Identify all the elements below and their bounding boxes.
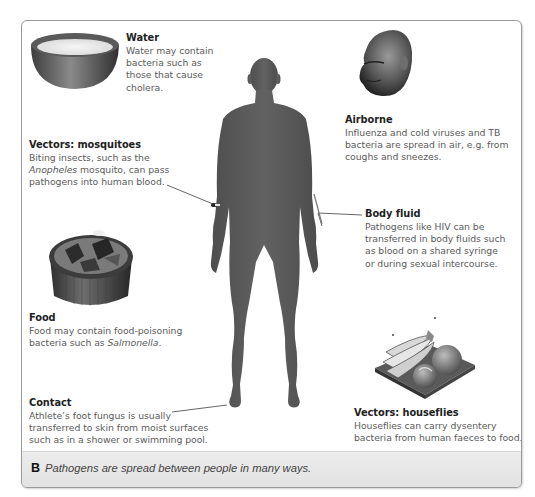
human-body-silhouette xyxy=(211,58,318,407)
syringe-icon xyxy=(314,194,322,224)
callout-mosquitoes: Vectors: mosquitoes Biting insects, such… xyxy=(29,139,169,189)
genus-name: Anopheles xyxy=(29,164,77,175)
callout-line: bacteria such as Salmonella. xyxy=(29,337,182,349)
callout-line: Pathogens like HIV can be xyxy=(365,221,505,233)
callout-line: bacteria from human faeces to food. xyxy=(354,432,522,444)
callout-line: Athlete’s foot fungus is usually xyxy=(29,410,208,422)
callout-title: Contact xyxy=(29,397,208,410)
callout-line-prefix: bacteria such as xyxy=(29,337,107,348)
genus-name: Salmonella xyxy=(107,337,158,348)
callout-line: Biting insects, such as the xyxy=(29,152,169,164)
callout-line: Houseflies can carry dysentery xyxy=(354,420,522,432)
callout-food: Food Food may contain food-poisoning bac… xyxy=(29,312,182,349)
callout-contact: Contact Athlete’s foot fungus is usually… xyxy=(29,397,208,447)
figure-letter: B xyxy=(31,461,40,475)
bowl-of-water-icon xyxy=(31,33,119,89)
callout-title: Body fluid xyxy=(365,208,505,221)
callout-line: such as in a shower or swimming pool. xyxy=(29,434,208,446)
callout-line: cholera. xyxy=(126,82,213,94)
bite-highlight xyxy=(215,204,220,206)
callout-line-suffix: . xyxy=(158,337,161,348)
callout-line: bacteria are spread in air, e.g. from xyxy=(345,139,508,151)
callout-houseflies: Vectors: houseflies Houseflies can carry… xyxy=(354,407,522,444)
figure-caption: BPathogens are spread between people in … xyxy=(22,451,521,487)
callout-line: transferred to skin from moist surfaces xyxy=(29,422,208,434)
callout-line-rest: mosquito, can pass xyxy=(77,164,169,175)
callout-title: Vectors: mosquitoes xyxy=(29,139,169,152)
callout-line: coughs and sneezes. xyxy=(345,151,508,163)
callout-line: Anopheles mosquito, can pass xyxy=(29,164,169,176)
sneezing-head-icon xyxy=(359,30,412,96)
callout-line: Influenza and cold viruses and TB xyxy=(345,127,508,139)
callout-line: those that cause xyxy=(126,69,213,81)
callout-title: Airborne xyxy=(345,114,508,127)
callout-title: Food xyxy=(29,312,182,325)
callout-line: Food may contain food-poisoning xyxy=(29,325,182,337)
food-container-icon xyxy=(49,230,133,306)
callout-title: Water xyxy=(126,32,213,45)
caption-text: Pathogens are spread between people in m… xyxy=(45,462,311,474)
callout-line: Water may contain xyxy=(126,45,213,57)
callout-title: Vectors: houseflies xyxy=(354,407,522,420)
fruit-plate-icon xyxy=(375,317,475,399)
callout-body-fluid: Body fluid Pathogens like HIV can be tra… xyxy=(365,208,505,270)
callout-line: as blood on a shared syringe xyxy=(365,245,505,257)
callout-line: or during sexual intercourse. xyxy=(365,258,505,270)
callout-airborne: Airborne Influenza and cold viruses and … xyxy=(345,114,508,164)
callout-line: transferred in body fluids such xyxy=(365,233,505,245)
callout-line: bacteria such as xyxy=(126,57,213,69)
callout-line: pathogens into human blood. xyxy=(29,176,169,188)
callout-water: Water Water may contain bacteria such as… xyxy=(126,32,213,94)
